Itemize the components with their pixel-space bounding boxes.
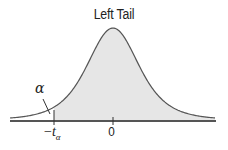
alpha-subscript: α	[56, 132, 61, 142]
shaded-region	[54, 28, 215, 121]
zero-label: 0	[108, 124, 115, 139]
minus-sign: −	[44, 124, 52, 139]
critical-value-label: −tα	[44, 124, 61, 142]
alpha-label: α	[35, 80, 44, 96]
